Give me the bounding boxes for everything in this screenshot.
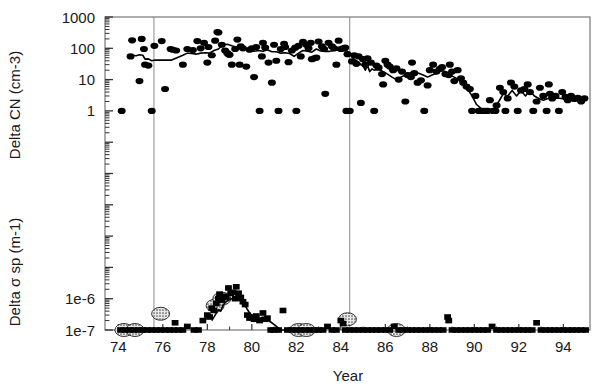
data-point-circle [135, 78, 143, 84]
data-point-square [195, 327, 202, 333]
x-axis-title: Year [333, 367, 363, 384]
data-point-circle [357, 100, 365, 106]
data-point-square [445, 318, 452, 324]
data-point-circle [514, 108, 522, 114]
data-point-square [529, 327, 536, 333]
x-tick-label: 78 [199, 338, 216, 355]
data-point-circle [529, 108, 537, 114]
y-tick-label-top: 10 [78, 71, 95, 88]
x-tick-label: 86 [377, 338, 394, 355]
data-point-circle [236, 62, 244, 68]
delta-cn-sigma-sp-timeseries-chart: 10001001011e-61e-77476788082848688909294… [0, 0, 604, 386]
data-point-circle [332, 62, 340, 68]
data-point-circle [370, 108, 378, 114]
data-point-circle [265, 59, 273, 65]
data-point-circle [545, 81, 553, 87]
data-point-circle [580, 95, 588, 101]
data-point-square [184, 324, 191, 330]
data-point-circle [510, 83, 518, 89]
data-point-circle [486, 97, 494, 103]
data-point-circle [138, 36, 146, 42]
data-point-circle [127, 53, 135, 59]
data-point-circle [258, 53, 266, 59]
data-point-circle [501, 108, 509, 114]
data-point-circle [281, 44, 289, 50]
data-point-circle [118, 108, 126, 114]
y-tick-label-top: 1 [87, 102, 95, 119]
data-point-circle [346, 108, 354, 114]
data-point-circle [417, 77, 425, 83]
x-tick-label: 92 [510, 338, 527, 355]
data-point-square [440, 327, 447, 333]
data-point-circle [150, 43, 158, 49]
x-tick-label: 90 [466, 338, 483, 355]
y-tick-label-bottom: 1e-7 [65, 322, 95, 339]
data-point-square [172, 320, 179, 326]
data-point-circle [307, 40, 315, 46]
data-point-circle [250, 74, 258, 80]
y-axis-title-bottom: Delta σ sp (m-1) [6, 218, 23, 326]
data-point-circle [197, 45, 205, 51]
data-point-circle [148, 108, 156, 114]
data-point-circle [270, 42, 278, 48]
data-point-circle [292, 108, 300, 114]
data-point-circle [446, 62, 454, 68]
y-axis-title-top: Delta CN (cm-3) [6, 51, 23, 159]
data-point-circle [268, 80, 276, 86]
data-point-circle [172, 47, 180, 53]
data-point-square [582, 327, 589, 333]
data-point-circle [401, 98, 409, 104]
data-point-circle [524, 81, 532, 87]
data-point-circle [161, 86, 169, 92]
data-point-circle [536, 85, 544, 91]
data-point-square [199, 318, 206, 324]
y-tick-label-top: 1000 [62, 9, 95, 26]
data-point-circle [140, 46, 148, 52]
data-point-circle [214, 29, 222, 35]
data-point-circle [189, 47, 197, 53]
data-point-circle [228, 62, 236, 68]
data-point-circle [408, 59, 416, 65]
data-point-circle [144, 63, 152, 69]
data-point-square [533, 320, 540, 326]
data-point-circle [312, 55, 320, 61]
data-point-circle [454, 67, 462, 73]
data-point-circle [256, 108, 264, 114]
x-tick-label: 74 [110, 338, 127, 355]
data-point-circle [252, 44, 260, 50]
data-point-circle [128, 37, 136, 43]
x-tick-label: 76 [155, 338, 172, 355]
data-point-circle [379, 81, 387, 87]
data-point-highlight-ellipse [152, 307, 170, 320]
figure-container: 10001001011e-61e-77476788082848688909294… [0, 0, 604, 386]
y-tick-label-top: 100 [70, 40, 95, 57]
data-point-square [340, 321, 347, 327]
x-tick-label: 84 [332, 338, 349, 355]
data-point-circle [233, 36, 241, 42]
data-point-circle [543, 108, 551, 114]
data-point-circle [335, 38, 343, 44]
data-point-circle [204, 44, 212, 50]
data-point-circle [158, 38, 166, 44]
data-point-circle [179, 62, 187, 68]
data-point-square [233, 284, 240, 290]
data-point-square [333, 327, 340, 333]
data-point-circle [211, 38, 219, 44]
data-point-circle [275, 108, 283, 114]
data-point-square [280, 308, 287, 314]
x-tick-label: 88 [421, 338, 438, 355]
data-point-circle [226, 52, 234, 58]
data-point-circle [321, 91, 329, 97]
x-tick-label: 94 [555, 338, 572, 355]
y-tick-label-bottom: 1e-6 [65, 290, 95, 307]
x-tick-label: 80 [243, 338, 260, 355]
data-point-circle [438, 64, 446, 70]
x-tick-label: 82 [288, 338, 305, 355]
data-point-circle [420, 108, 428, 114]
data-point-circle [285, 59, 293, 65]
data-point-square [260, 310, 267, 316]
data-point-circle [272, 58, 280, 64]
data-point-circle [203, 59, 211, 65]
data-point-circle [555, 108, 563, 114]
data-point-circle [424, 82, 432, 88]
